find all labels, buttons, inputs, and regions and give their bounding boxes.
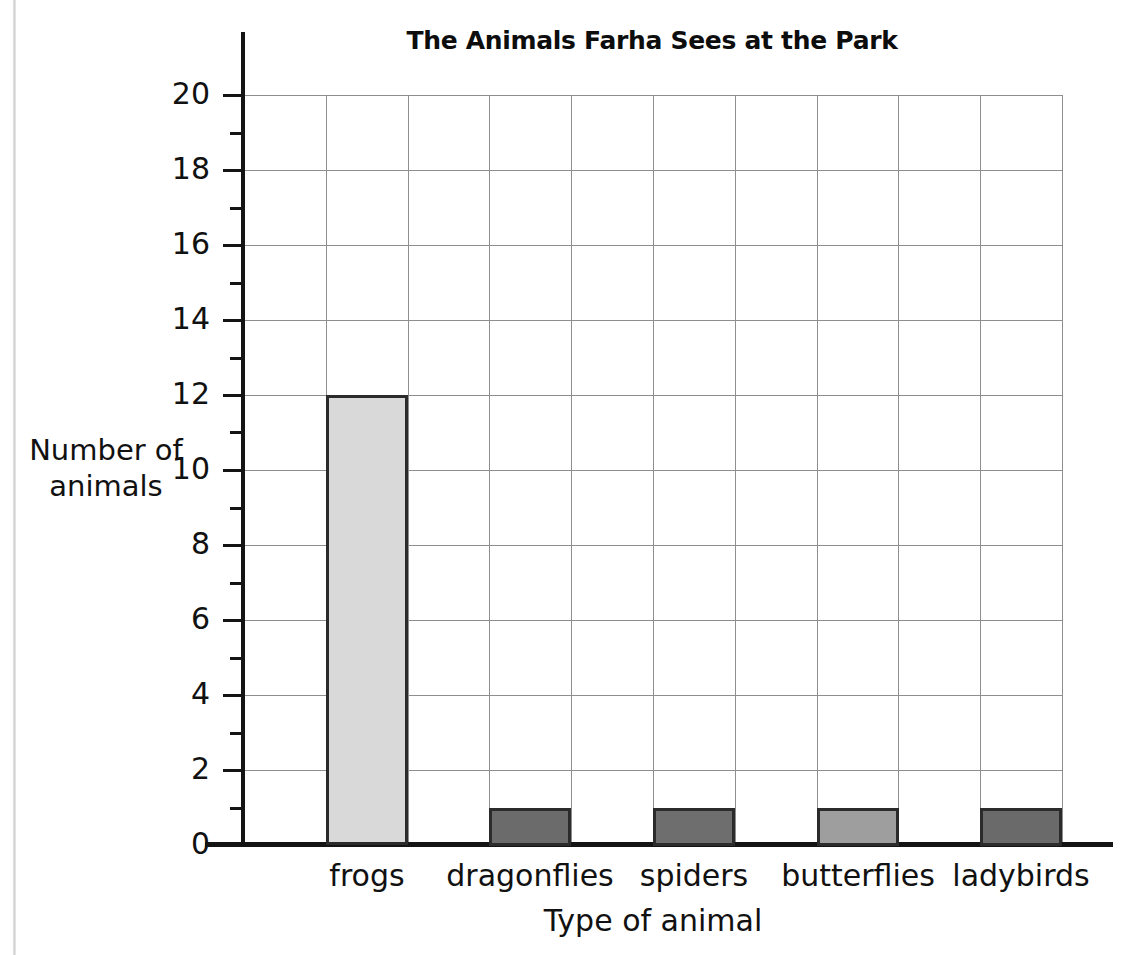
grid-line-horizontal — [244, 320, 1062, 321]
y-axis-title: Number of animals — [8, 432, 204, 504]
bar-spiders — [653, 808, 735, 846]
y-axis-line — [241, 32, 245, 845]
y-axis-major-tick — [223, 394, 243, 397]
y-axis-tick-label: 18 — [148, 154, 210, 184]
y-axis-major-tick — [223, 244, 243, 247]
x-axis-title: Type of animal — [244, 903, 1062, 938]
y-axis-tick-label: 14 — [148, 304, 210, 334]
x-axis-category-label: ladybirds — [901, 858, 1141, 893]
y-axis-major-tick — [223, 694, 243, 697]
y-axis-tick-label: 6 — [148, 604, 210, 634]
y-axis-tick-label: 12 — [148, 379, 210, 409]
bar-ladybirds — [980, 808, 1062, 846]
y-axis-major-tick — [223, 619, 243, 622]
y-axis-major-tick — [223, 544, 243, 547]
y-axis-major-tick — [223, 169, 243, 172]
grid-line-horizontal — [244, 170, 1062, 171]
bar-frogs — [326, 395, 408, 845]
y-axis-major-tick — [223, 94, 243, 97]
y-axis-title-line2: animals — [8, 468, 204, 504]
y-axis-tick-label: 4 — [148, 679, 210, 709]
y-axis-tick-label: 16 — [148, 229, 210, 259]
y-axis-tick-label: 8 — [148, 529, 210, 559]
y-axis-tick-label: 0 — [148, 829, 210, 859]
bar-dragonflies — [489, 808, 571, 846]
chart-title: The Animals Farha Sees at the Park — [240, 26, 1064, 55]
y-axis-major-tick — [223, 469, 243, 472]
y-axis-major-tick — [223, 319, 243, 322]
bar-chart: The Animals Farha Sees at the Park 02468… — [0, 0, 1146, 955]
y-axis-major-tick — [223, 769, 243, 772]
grid-line-horizontal — [244, 245, 1062, 246]
grid-line-vertical — [1062, 95, 1063, 845]
bar-butterflies — [817, 808, 899, 846]
grid-line-horizontal — [244, 95, 1062, 96]
y-axis-title-line1: Number of — [8, 432, 204, 468]
y-axis-tick-label: 20 — [148, 79, 210, 109]
y-axis-tick-label: 2 — [148, 754, 210, 784]
